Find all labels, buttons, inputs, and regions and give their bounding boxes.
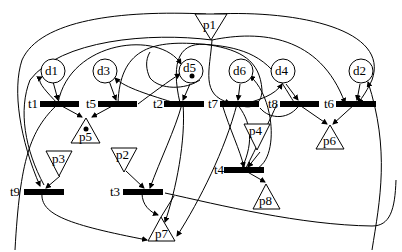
place-d6[interactable]: d6 [229, 59, 253, 83]
transition-t8[interactable]: t8 [268, 96, 319, 111]
svg-text:p1: p1 [203, 17, 216, 32]
arcs [15, 13, 396, 250]
svg-text:t7: t7 [208, 96, 219, 111]
token-icon [190, 74, 195, 79]
svg-text:p4: p4 [249, 123, 263, 138]
svg-text:p5: p5 [79, 129, 92, 144]
place-p3[interactable]: p3 [46, 151, 72, 176]
svg-text:t4: t4 [214, 162, 225, 177]
svg-text:t3: t3 [110, 184, 120, 199]
svg-text:t9: t9 [10, 184, 20, 199]
place-p4[interactable]: p4 [244, 123, 270, 150]
transition-t7[interactable]: t7 [208, 96, 259, 111]
svg-text:d2: d2 [353, 63, 366, 78]
svg-text:t5: t5 [86, 96, 96, 111]
transition-t5[interactable]: t5 [86, 96, 137, 111]
transition-t9[interactable]: t9 [10, 184, 64, 199]
svg-text:p6: p6 [323, 133, 337, 148]
svg-text:p3: p3 [52, 151, 65, 166]
place-p1[interactable]: p1 [195, 14, 227, 40]
place-p5[interactable]: p5 [71, 118, 100, 144]
svg-text:p7: p7 [155, 226, 169, 241]
place-d2[interactable]: d2 [349, 59, 373, 83]
place-d1[interactable]: d1 [41, 59, 65, 83]
petri-net-diagram: t1 t5 t2 t7 t8 t6 t4 t9 [0, 0, 402, 252]
place-d4[interactable]: d4 [271, 59, 295, 83]
svg-text:t2: t2 [153, 96, 163, 111]
place-p6[interactable]: p6 [316, 125, 344, 149]
svg-text:d1: d1 [45, 63, 58, 78]
place-d5[interactable]: d5 [179, 59, 203, 83]
svg-text:d4: d4 [275, 63, 289, 78]
svg-text:t1: t1 [28, 96, 38, 111]
transition-t3[interactable]: t3 [110, 184, 163, 199]
svg-text:d6: d6 [233, 63, 247, 78]
svg-text:t8: t8 [268, 96, 278, 111]
transition-t4[interactable]: t4 [214, 162, 264, 177]
circle-places: d1 d3 d5 d6 d4 d2 [41, 59, 373, 83]
svg-text:p8: p8 [259, 193, 272, 208]
place-d3[interactable]: d3 [93, 59, 117, 83]
svg-text:p2: p2 [116, 147, 129, 162]
svg-text:d3: d3 [97, 63, 110, 78]
svg-text:d5: d5 [183, 60, 196, 75]
place-p2[interactable]: p2 [111, 147, 137, 172]
place-p8[interactable]: p8 [253, 184, 280, 209]
svg-text:t6: t6 [324, 96, 335, 111]
